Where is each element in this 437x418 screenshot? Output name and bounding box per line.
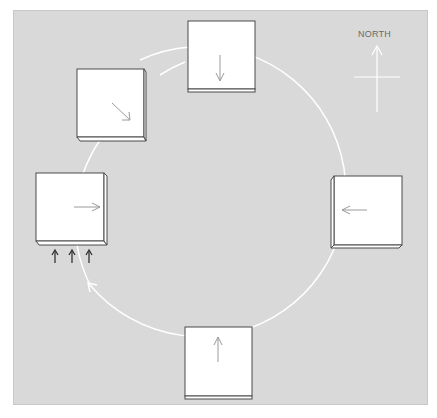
panel-left	[36, 173, 107, 263]
north-compass-icon	[354, 46, 400, 112]
incoming-arrows-icon	[52, 250, 92, 263]
panel-upper-left	[77, 69, 146, 141]
diagram-canvas	[0, 0, 437, 418]
compass-north-label: NORTH	[358, 29, 391, 39]
panel-bottom	[185, 327, 252, 399]
panel-right	[331, 176, 402, 248]
panel-top	[188, 21, 255, 92]
